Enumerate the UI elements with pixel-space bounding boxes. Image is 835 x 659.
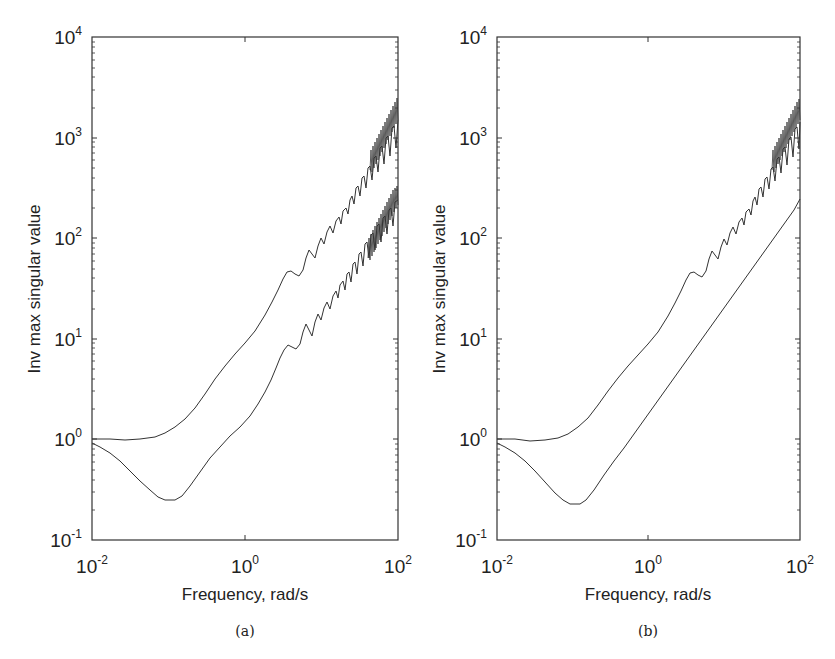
series-upper-a bbox=[92, 120, 398, 440]
y-tick-labels-b: 104 103 102 101 100 10-1 bbox=[455, 24, 487, 551]
ytick-b-10-3: 103 bbox=[459, 125, 487, 149]
y-tick-labels-a: 104 103 102 101 100 10-1 bbox=[50, 24, 82, 551]
figure: 104 103 102 101 100 10-1 10-2 100 102 Fr… bbox=[0, 0, 835, 659]
xtick-b-10-0: 100 bbox=[634, 553, 662, 577]
ytick-a-10-3: 103 bbox=[54, 125, 82, 149]
ytick-b-10-4: 104 bbox=[459, 24, 487, 48]
ytick-a-10-0: 100 bbox=[54, 426, 82, 450]
ytick-a-10-1: 101 bbox=[54, 326, 82, 350]
panel-b: 104 103 102 101 100 10-1 10-2 100 102 Fr… bbox=[430, 24, 814, 639]
series-lower-b bbox=[497, 199, 800, 504]
xtick-a-10-2: 102 bbox=[384, 553, 412, 577]
y-axis-label-b: Inv max singular value bbox=[430, 204, 449, 373]
ytick-b-10-1: 101 bbox=[459, 326, 487, 350]
ytick-b-10-2: 102 bbox=[459, 225, 487, 249]
series-upper-b-band bbox=[772, 99, 800, 172]
panel-a: 104 103 102 101 100 10-1 10-2 100 102 Fr… bbox=[25, 24, 412, 639]
y-axis-label-a: Inv max singular value bbox=[25, 204, 44, 373]
series-lower-a bbox=[92, 200, 398, 500]
ytick-b-10-0: 100 bbox=[459, 426, 487, 450]
plot-area-a bbox=[92, 37, 398, 540]
ytick-b-10-m1: 10-1 bbox=[455, 527, 487, 551]
ytick-a-10-2: 102 bbox=[54, 225, 82, 249]
caption-b: (b) bbox=[638, 623, 658, 639]
ytick-a-10-m1: 10-1 bbox=[50, 527, 82, 551]
y-ticks-a bbox=[92, 37, 398, 540]
xtick-b-10-2: 102 bbox=[786, 553, 814, 577]
x-axis-label-a: Frequency, rad/s bbox=[182, 585, 308, 604]
xtick-a-10-0: 100 bbox=[231, 553, 259, 577]
caption-a: (a) bbox=[235, 623, 254, 639]
xtick-a-10-m2: 10-2 bbox=[76, 553, 108, 577]
y-ticks-b bbox=[497, 37, 800, 540]
xtick-b-10-m2: 10-2 bbox=[481, 553, 513, 577]
ytick-a-10-4: 104 bbox=[54, 24, 82, 48]
x-tick-labels-a: 10-2 100 102 bbox=[76, 553, 412, 577]
x-tick-labels-b: 10-2 100 102 bbox=[481, 553, 814, 577]
series-upper-b bbox=[497, 122, 800, 441]
x-axis-label-b: Frequency, rad/s bbox=[585, 585, 711, 604]
plot-area-b bbox=[497, 37, 800, 540]
